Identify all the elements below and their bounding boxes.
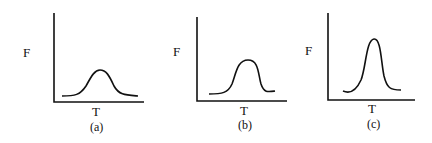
panel-caption: (b) [238,118,252,132]
y-axis-label: F [23,45,30,60]
panel-caption: (a) [90,120,103,134]
axes [197,17,287,101]
panel-b: F T (b) [173,17,287,132]
x-axis-label: T [92,104,100,119]
axes [328,13,415,100]
curve [343,39,401,92]
axes [54,13,144,102]
panel-a: F T (a) [23,13,144,134]
y-axis-label: F [305,43,312,58]
y-axis-label: F [173,44,180,59]
curve [209,60,275,94]
x-axis-label: T [368,101,376,116]
figure: F T (a) F T (b) F T (c) [0,0,432,143]
x-axis-label: T [240,103,248,118]
panel-c: F T (c) [305,13,415,131]
curve [62,70,138,96]
panel-caption: (c) [367,117,380,131]
